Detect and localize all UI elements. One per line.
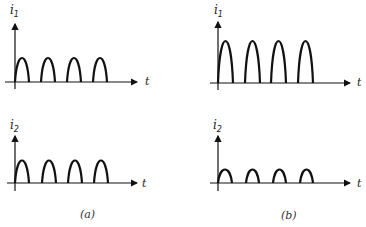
x-axis-label: t	[145, 75, 150, 88]
x-axis-label: t	[357, 177, 362, 190]
panel-caption: (b)	[281, 209, 297, 222]
waveform-diagram: i1 t i1 t i2 t (a) i2 t (b)	[0, 0, 366, 227]
pulse-train	[15, 161, 108, 184]
x-axis-label: t	[142, 177, 147, 190]
svg-text:i1: i1	[10, 3, 19, 19]
pulse-train	[15, 58, 107, 82]
svg-text:i2: i2	[213, 118, 222, 134]
pulse-train	[218, 170, 313, 184]
plot-a-i2: i2 t (a)	[7, 118, 147, 221]
plot-b-i2: i2 t (b)	[210, 118, 362, 222]
plot-a-i1: i1 t	[5, 3, 150, 89]
svg-text:i1: i1	[214, 3, 223, 19]
panel-caption: (a)	[80, 208, 95, 221]
plot-b-i1: i1 t	[210, 3, 362, 90]
x-axis-label: t	[357, 76, 362, 89]
pulse-train	[218, 41, 313, 83]
svg-text:i2: i2	[10, 118, 19, 134]
